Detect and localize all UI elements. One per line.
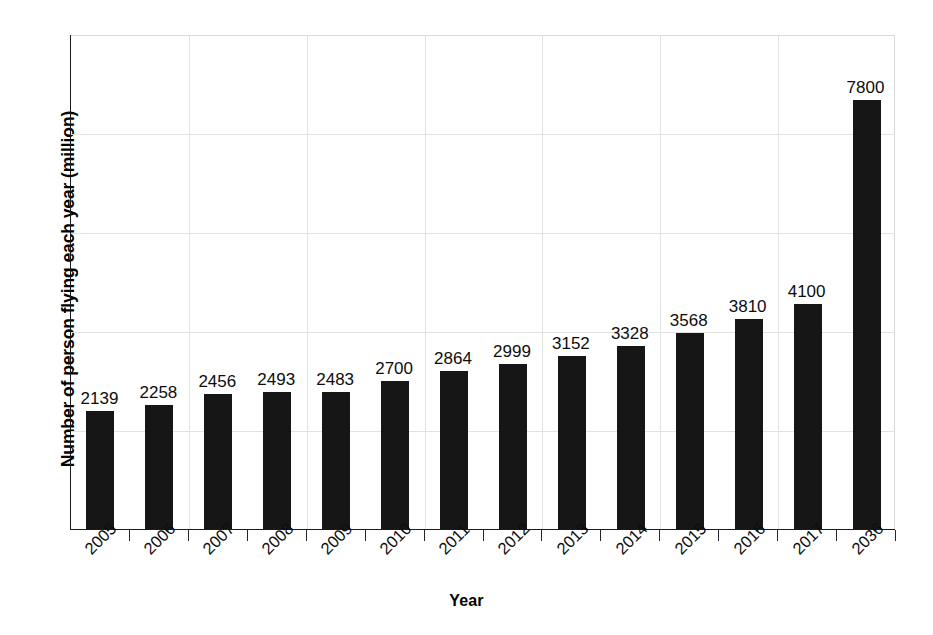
bar (499, 364, 527, 529)
bar-value-label: 7800 (826, 78, 906, 97)
bar (263, 392, 291, 529)
bar (794, 304, 822, 530)
bar (322, 392, 350, 529)
plot-top-border (71, 35, 895, 36)
bar (617, 346, 645, 529)
gridline-horizontal (71, 332, 895, 333)
gridline-vertical (189, 35, 190, 529)
gridline-horizontal (71, 233, 895, 234)
bar (86, 411, 114, 529)
plot-right-border (894, 35, 895, 529)
bar (853, 100, 881, 529)
gridline-vertical (660, 35, 661, 529)
x-axis-tick (836, 530, 837, 541)
x-axis-tick (424, 530, 425, 541)
gridline-horizontal (71, 134, 895, 135)
gridline-horizontal (71, 431, 895, 432)
x-axis-tick (777, 530, 778, 541)
bar-value-label: 4100 (767, 282, 847, 301)
x-axis-tick (895, 530, 896, 541)
x-axis-tick (718, 530, 719, 541)
bar-chart-figure: Number of person flying each year (milli… (0, 0, 933, 635)
gridline-vertical (307, 35, 308, 529)
bar (440, 371, 468, 529)
x-axis-tick (129, 530, 130, 541)
x-axis-tick (365, 530, 366, 541)
x-axis-title: Year (0, 592, 933, 610)
bar (676, 333, 704, 529)
bar (381, 381, 409, 530)
bar (204, 394, 232, 529)
x-axis-tick (541, 530, 542, 541)
gridline-vertical (542, 35, 543, 529)
x-axis-tick (483, 530, 484, 541)
gridline-vertical (425, 35, 426, 529)
x-axis-tick (600, 530, 601, 541)
x-axis-tick (306, 530, 307, 541)
x-axis-tick (247, 530, 248, 541)
x-axis-tick (659, 530, 660, 541)
bar (145, 405, 173, 529)
bar (558, 356, 586, 529)
x-axis-tick (188, 530, 189, 541)
bar (735, 319, 763, 529)
